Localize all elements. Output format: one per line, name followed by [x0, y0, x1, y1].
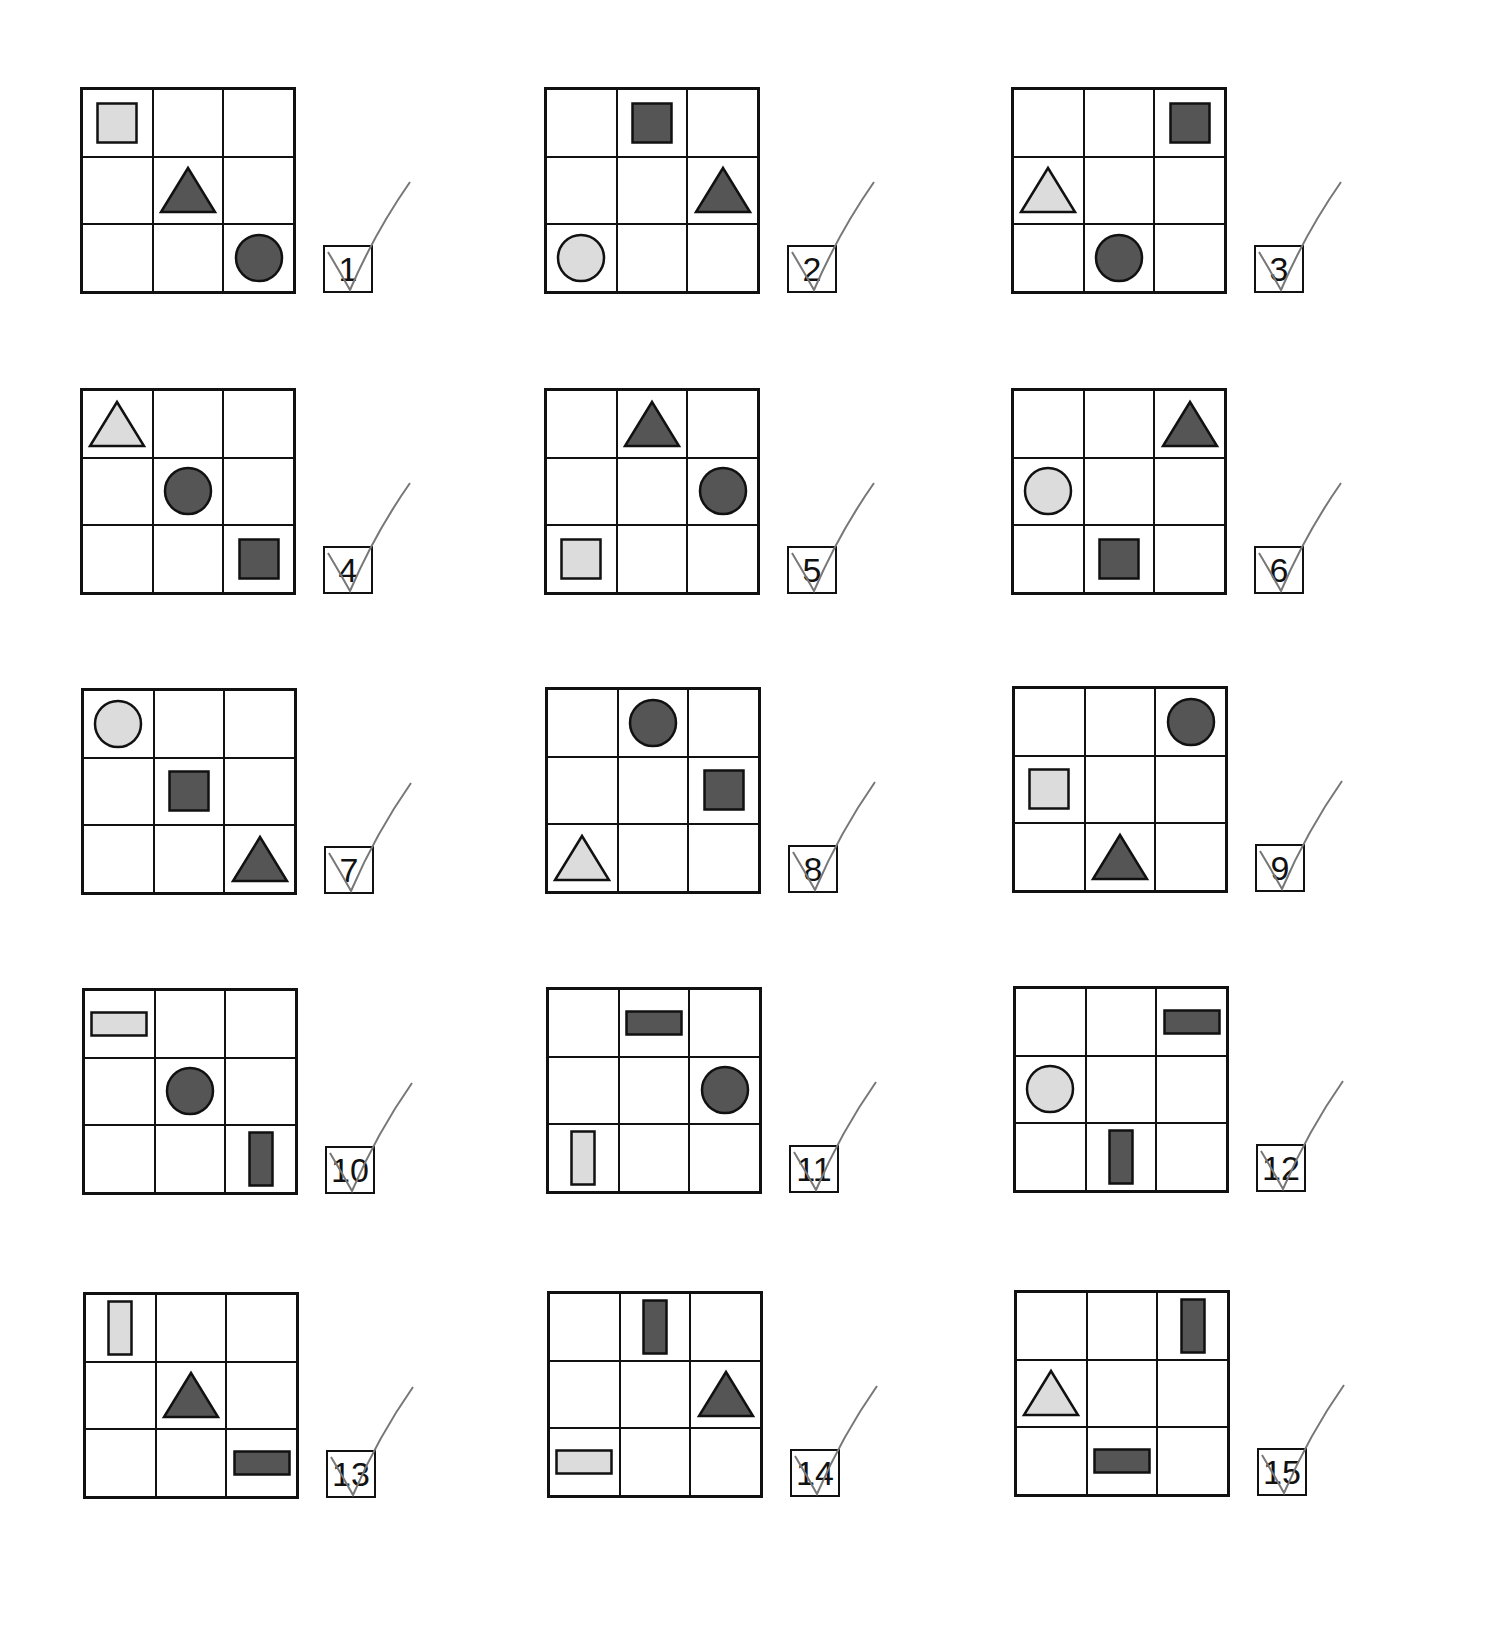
- triangle-shape-icon: [161, 1370, 221, 1420]
- triangle-shape-icon: [1018, 165, 1078, 215]
- shape-grid: [545, 687, 761, 894]
- grid-cell: [82, 157, 153, 225]
- square-shape-icon: [1098, 538, 1140, 580]
- hrect-shape-icon: [233, 1450, 291, 1476]
- circle-shape-icon: [163, 466, 213, 516]
- circle-shape-icon: [93, 699, 143, 749]
- item-number-box: 4: [323, 546, 373, 594]
- grid-cell: [1155, 756, 1226, 824]
- item-number-box: 7: [324, 846, 374, 894]
- grid-cell: [83, 690, 154, 758]
- grid-cell: [156, 1429, 227, 1497]
- grid-cell: [1084, 390, 1155, 458]
- item-number-box: 2: [787, 245, 837, 293]
- grid-cell: [156, 1294, 227, 1362]
- grid-cell: [620, 1428, 691, 1496]
- circle-shape-icon: [1023, 466, 1073, 516]
- grid-cell: [85, 1362, 156, 1430]
- square-shape-icon: [96, 102, 138, 144]
- shape-grid: [81, 688, 297, 895]
- grid-cell: [154, 758, 225, 826]
- grid-cell: [618, 824, 689, 892]
- grid-cell: [547, 689, 618, 757]
- vrect-shape-icon: [248, 1131, 274, 1187]
- shape-grid: [544, 388, 760, 595]
- item-number-box: 1: [323, 245, 373, 293]
- item-number-box: 12: [1256, 1144, 1306, 1192]
- grid-cell: [225, 990, 296, 1058]
- circle-shape-icon: [628, 698, 678, 748]
- shape-grid: [82, 988, 298, 1195]
- grid-cell: [223, 157, 294, 225]
- item-number-box: 3: [1254, 245, 1304, 293]
- grid-cell: [546, 224, 617, 292]
- grid-cell: [1084, 157, 1155, 225]
- circle-shape-icon: [234, 233, 284, 283]
- grid-cell: [619, 1057, 690, 1125]
- grid-cell: [618, 757, 689, 825]
- vrect-shape-icon: [642, 1299, 668, 1355]
- grid-cell: [1014, 688, 1085, 756]
- grid-cell: [1084, 224, 1155, 292]
- grid-cell: [617, 224, 688, 292]
- item-number-box: 5: [787, 546, 837, 594]
- shape-grid: [80, 87, 296, 294]
- item-number-box: 10: [325, 1146, 375, 1194]
- grid-cell: [85, 1294, 156, 1362]
- grid-cell: [1084, 458, 1155, 526]
- grid-cell: [223, 458, 294, 526]
- grid-cell: [225, 1125, 296, 1193]
- grid-cell: [84, 1058, 155, 1126]
- grid-cell: [617, 458, 688, 526]
- grid-cell: [84, 990, 155, 1058]
- grid-cell: [1154, 157, 1225, 225]
- grid-cell: [1084, 89, 1155, 157]
- grid-cell: [619, 1124, 690, 1192]
- circle-shape-icon: [556, 233, 606, 283]
- grid-cell: [546, 458, 617, 526]
- circle-shape-icon: [1166, 697, 1216, 747]
- grid-cell: [1156, 1056, 1227, 1124]
- shape-grid: [544, 87, 760, 294]
- grid-cell: [82, 89, 153, 157]
- grid-cell: [1156, 1123, 1227, 1191]
- grid-cell: [1087, 1292, 1158, 1360]
- shape-grid: [546, 987, 762, 1194]
- grid-cell: [1085, 688, 1156, 756]
- grid-cell: [226, 1429, 297, 1497]
- grid-cell: [1157, 1427, 1228, 1495]
- grid-cell: [617, 89, 688, 157]
- grid-cell: [689, 1124, 760, 1192]
- grid-cell: [1087, 1427, 1158, 1495]
- circle-shape-icon: [698, 466, 748, 516]
- square-shape-icon: [238, 538, 280, 580]
- item-number-box: 8: [788, 845, 838, 893]
- square-shape-icon: [1169, 102, 1211, 144]
- grid-cell: [223, 525, 294, 593]
- item-number-box: 13: [326, 1450, 376, 1498]
- grid-cell: [1154, 89, 1225, 157]
- grid-cell: [690, 1428, 761, 1496]
- grid-cell: [1157, 1292, 1228, 1360]
- grid-cell: [1013, 224, 1084, 292]
- grid-cell: [1156, 988, 1227, 1056]
- triangle-shape-icon: [87, 399, 147, 449]
- grid-cell: [1084, 525, 1155, 593]
- grid-cell: [82, 525, 153, 593]
- hrect-shape-icon: [555, 1449, 613, 1475]
- item-number-box: 6: [1254, 546, 1304, 594]
- grid-cell: [547, 757, 618, 825]
- square-shape-icon: [168, 770, 210, 812]
- item-number-box: 11: [789, 1145, 839, 1193]
- grid-cell: [153, 157, 224, 225]
- grid-cell: [83, 758, 154, 826]
- square-shape-icon: [703, 769, 745, 811]
- grid-cell: [689, 1057, 760, 1125]
- shape-grid: [1011, 87, 1227, 294]
- grid-cell: [1085, 823, 1156, 891]
- vrect-shape-icon: [1108, 1129, 1134, 1185]
- item-number-box: 14: [790, 1449, 840, 1497]
- grid-cell: [1015, 1123, 1086, 1191]
- triangle-shape-icon: [693, 165, 753, 215]
- grid-cell: [549, 1428, 620, 1496]
